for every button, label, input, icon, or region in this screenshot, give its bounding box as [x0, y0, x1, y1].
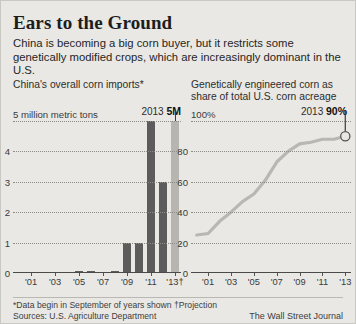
gridline — [191, 151, 351, 152]
y-axis-tick-label: 3 — [5, 176, 13, 187]
x-axis-tick — [55, 273, 56, 276]
gridline — [191, 182, 351, 183]
x-axis-tick — [208, 273, 209, 276]
y-axis-tick-label: 80 — [177, 146, 191, 157]
x-axis-tick — [103, 273, 104, 276]
publication-credit: The Wall Street Journal — [249, 311, 343, 321]
right-chart-callout: 2013 90% — [301, 105, 347, 117]
bar — [147, 121, 154, 273]
left-chart-subtitle: China's overall corn imports* — [13, 79, 181, 105]
line-series — [191, 121, 351, 273]
x-axis-tick — [300, 273, 301, 276]
y-axis-tick-label: 1 — [5, 237, 13, 248]
right-panel-header: Genetically engineered corn as share of … — [191, 79, 351, 105]
y-axis-tick-label: 60 — [177, 176, 191, 187]
y-axis-tick-label: 20 — [177, 237, 191, 248]
gridline — [191, 121, 351, 122]
bar — [135, 243, 142, 273]
x-axis-tick — [151, 273, 152, 276]
page-title: Ears to the Ground — [13, 12, 172, 34]
x-axis-tick-label: '13 — [339, 277, 351, 287]
left-panel-header: China's overall corn imports* 2013 5M — [13, 79, 181, 105]
y-axis-tick-label: 5 million metric tons — [13, 109, 98, 121]
x-axis-tick — [254, 273, 255, 276]
bar-chart-x-axis: '01'03'05'07'09'11'13† — [13, 273, 181, 295]
line-chart-x-axis: '01'03'05'07'09'11'13 — [191, 273, 351, 295]
y-axis-tick-label: 4 — [5, 146, 13, 157]
bar — [171, 121, 178, 273]
right-callout-year: 2013 — [301, 106, 323, 117]
bar-series — [13, 121, 181, 273]
x-axis-tick — [31, 273, 32, 276]
gridline — [13, 151, 181, 152]
x-axis-tick-label: '05 — [73, 277, 85, 287]
x-axis-tick-label: '11 — [145, 277, 156, 287]
x-axis-tick-label: '01 — [25, 277, 37, 287]
footer-divider — [13, 297, 343, 298]
gridline — [13, 243, 181, 244]
x-axis-tick-label: '13† — [166, 277, 183, 287]
footer-notes: *Data begin in September of years shown … — [13, 300, 217, 321]
y-axis-tick-label: 0 — [183, 268, 191, 279]
infographic-root: Ears to the Ground China is becoming a b… — [0, 0, 356, 324]
x-axis-tick — [79, 273, 80, 276]
gridline — [191, 212, 351, 213]
y-axis-tick-label: 0 — [5, 268, 13, 279]
x-axis-tick — [127, 273, 128, 276]
bar — [159, 182, 166, 273]
y-axis-tick-label: 100% — [191, 109, 216, 121]
x-axis-tick — [231, 273, 232, 276]
x-axis-tick-label: '07 — [271, 277, 283, 287]
x-axis-tick-label: '05 — [248, 277, 260, 287]
page-deck: China is becoming a big corn buyer, but … — [13, 37, 349, 78]
left-callout-year: 2013 — [141, 106, 163, 117]
x-axis-tick-label: '07 — [97, 277, 109, 287]
x-axis-tick-label: '11 — [317, 277, 328, 287]
bar-chart-plot: '01'03'05'07'09'11'13† 012345 million me… — [13, 121, 181, 273]
x-axis-tick-label: '03 — [49, 277, 61, 287]
x-axis-tick-label: '09 — [121, 277, 133, 287]
x-axis-tick-label: '01 — [202, 277, 214, 287]
footnote-asterisk: *Data begin in September of years shown … — [13, 300, 217, 311]
right-callout-value: 90% — [326, 105, 347, 117]
x-axis-tick — [277, 273, 278, 276]
bar — [123, 243, 130, 273]
x-axis-tick — [175, 273, 176, 276]
y-axis-tick-label: 2 — [5, 207, 13, 218]
x-axis-tick — [322, 273, 323, 276]
x-axis-tick-label: '03 — [225, 277, 237, 287]
gridline — [191, 243, 351, 244]
x-axis-tick — [345, 273, 346, 276]
callout-leader-line — [175, 112, 176, 121]
right-chart-subtitle: Genetically engineered corn as share of … — [191, 79, 351, 105]
gridline — [13, 121, 181, 122]
footnote-sources: Sources: U.S. Agriculture Department — [13, 311, 217, 322]
gridline — [13, 212, 181, 213]
line-endpoint-marker — [341, 132, 350, 141]
line-chart-plot: '01'03'05'07'09'11'13 020406080100% — [191, 121, 351, 273]
x-axis-tick-label: '09 — [294, 277, 306, 287]
y-axis-tick-label: 40 — [177, 207, 191, 218]
gridline — [13, 182, 181, 183]
